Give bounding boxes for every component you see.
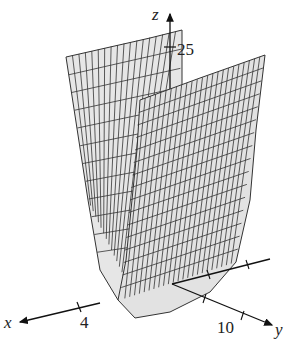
surface-plot: z 25 x 4 10 y <box>0 0 293 347</box>
x-tick-label: 4 <box>80 313 89 332</box>
y-axis-label: y <box>273 320 283 339</box>
y-tick-label: 10 <box>217 318 234 337</box>
z-axis-label: z <box>151 5 159 24</box>
z-tick-label: 25 <box>177 40 194 59</box>
x-axis-label: x <box>3 313 12 332</box>
x-axis: x 4 <box>3 302 100 332</box>
